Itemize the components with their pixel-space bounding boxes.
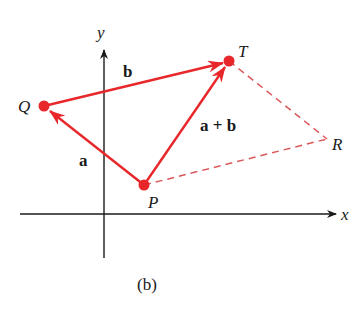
vector-a-label: a — [79, 151, 88, 170]
point-Q-dot — [39, 101, 50, 112]
figure-caption: (b) — [137, 275, 157, 294]
vector-b-label: b — [123, 62, 132, 81]
y-axis-label: y — [95, 23, 105, 42]
point-Q-label: Q — [18, 97, 30, 116]
point-T-dot — [224, 56, 235, 67]
vector-a — [50, 111, 144, 185]
vector-b — [44, 63, 223, 106]
dashed-line-T-R — [229, 61, 327, 139]
vector-addition-diagram: y x Q T P R a b a + b (b) — [0, 0, 362, 313]
point-P-dot — [139, 180, 150, 191]
point-T-label: T — [238, 42, 249, 61]
vector-sum-label: a + b — [200, 116, 236, 135]
point-P-label: P — [147, 193, 158, 212]
point-R-label: R — [331, 135, 343, 154]
x-axis-label: x — [340, 205, 349, 224]
